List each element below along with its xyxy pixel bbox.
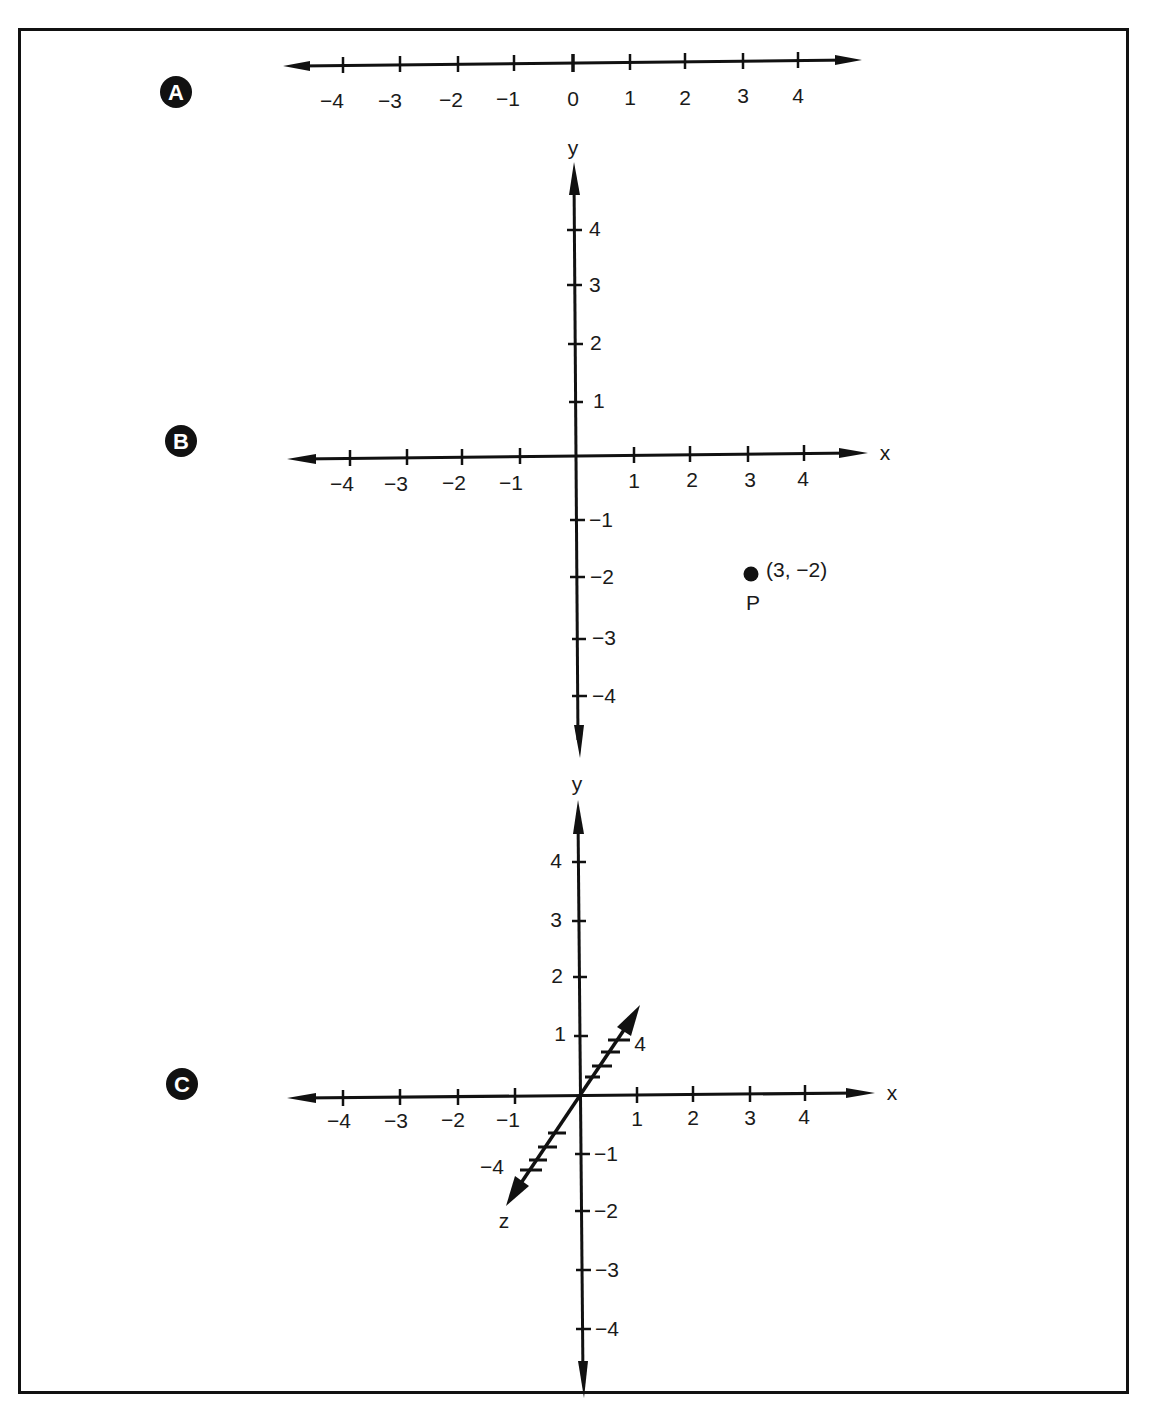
tick-label: −2 bbox=[439, 88, 463, 111]
y-tick-label: 4 bbox=[550, 849, 562, 872]
number-line-a-labels: −4 −3 −2 −1 0 1 2 3 4 bbox=[320, 84, 804, 112]
y-tick-label: 2 bbox=[590, 331, 602, 354]
panel-c: C x −4 −3 −2 −1 1 2 3 4 bbox=[166, 772, 898, 1398]
y-tick-label: −4 bbox=[592, 684, 616, 707]
tick-label: 2 bbox=[679, 86, 691, 109]
x-tick-label: 3 bbox=[744, 1106, 756, 1129]
x-axis-c: x −4 −3 −2 −1 1 2 3 4 bbox=[287, 1081, 898, 1132]
y-tick-label: 1 bbox=[593, 389, 605, 412]
tick-label: 4 bbox=[792, 84, 804, 107]
panel-a: A −4 −3 −2 −1 0 1 2 3 4 bbox=[160, 52, 862, 112]
tick-label: 3 bbox=[737, 84, 749, 107]
y-axis-b: y 4 3 2 1 −1 −2 −3 −4 bbox=[567, 136, 616, 758]
z-tick-label: −4 bbox=[480, 1155, 504, 1178]
x-tick-label: 3 bbox=[744, 468, 756, 491]
y-tick-label: −2 bbox=[590, 565, 614, 588]
y-tick-label: 1 bbox=[554, 1022, 566, 1045]
y-tick-label: 3 bbox=[589, 273, 601, 296]
x-axis-label: x bbox=[880, 441, 891, 464]
y-axis-c: y 4 3 2 1 −1 −2 −3 −4 bbox=[550, 772, 619, 1398]
tick-label: −1 bbox=[496, 87, 520, 110]
panel-b: B x −4 −3 −2 −1 1 2 3 4 bbox=[165, 136, 891, 758]
x-tick-label: −3 bbox=[384, 1109, 408, 1132]
x-tick-label: 2 bbox=[686, 468, 698, 491]
x-tick-label: −3 bbox=[384, 472, 408, 495]
x-tick-label: −1 bbox=[496, 1108, 520, 1131]
svg-text:A: A bbox=[168, 80, 184, 105]
y-tick-label: 2 bbox=[551, 964, 563, 987]
tick-label: 0 bbox=[567, 87, 579, 110]
x-tick-label: −4 bbox=[330, 472, 354, 495]
svg-text:B: B bbox=[173, 429, 189, 454]
tick-label: −4 bbox=[320, 89, 344, 112]
y-tick-label: 3 bbox=[550, 908, 562, 931]
tick-label: 1 bbox=[624, 86, 636, 109]
coordinate-systems-figure: A −4 −3 −2 −1 0 1 2 3 4 bbox=[0, 0, 1151, 1410]
x-tick-label: −2 bbox=[441, 1108, 465, 1131]
x-axis-b: x −4 −3 −2 −1 1 2 3 4 bbox=[287, 441, 891, 495]
y-tick-label: −1 bbox=[594, 1142, 618, 1165]
y-tick-label: −3 bbox=[595, 1258, 619, 1281]
y-axis-label: y bbox=[572, 772, 583, 795]
point-coords-label: (3, −2) bbox=[766, 558, 827, 581]
y-tick-label: −3 bbox=[592, 626, 616, 649]
x-tick-label: 4 bbox=[797, 467, 809, 490]
y-tick-label: 4 bbox=[589, 217, 601, 240]
svg-text:C: C bbox=[174, 1072, 190, 1097]
x-axis-label: x bbox=[887, 1081, 898, 1104]
badge-a: A bbox=[160, 76, 192, 108]
y-axis-label: y bbox=[568, 136, 579, 159]
x-tick-label: 1 bbox=[628, 469, 640, 492]
x-tick-label: −1 bbox=[499, 471, 523, 494]
point-name-label: P bbox=[746, 591, 760, 614]
x-tick-label: 1 bbox=[631, 1107, 643, 1130]
y-tick-label: −4 bbox=[595, 1317, 619, 1340]
y-tick-label: −1 bbox=[589, 508, 613, 531]
tick-label: −3 bbox=[378, 89, 402, 112]
x-tick-label: −2 bbox=[442, 471, 466, 494]
x-tick-label: 2 bbox=[687, 1106, 699, 1129]
point-p: (3, −2) P bbox=[744, 558, 828, 614]
badge-b: B bbox=[165, 425, 197, 457]
badge-c: C bbox=[166, 1068, 198, 1100]
z-tick-label: 4 bbox=[634, 1032, 646, 1055]
x-tick-label: 4 bbox=[798, 1105, 810, 1128]
x-tick-label: −4 bbox=[327, 1109, 351, 1132]
point-marker bbox=[744, 567, 759, 582]
z-axis-label: z bbox=[499, 1209, 510, 1232]
y-tick-label: −2 bbox=[594, 1199, 618, 1222]
